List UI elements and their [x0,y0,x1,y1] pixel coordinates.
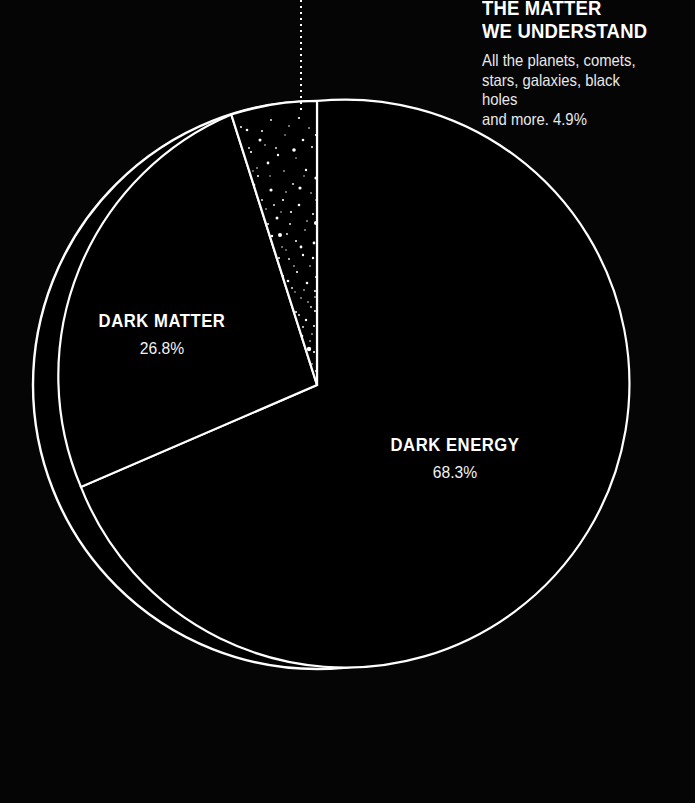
callout-matter-we-understand: THE MATTER WE UNDERSTAND All the planets… [482,0,677,129]
callout-description: All the planets, comets, stars, galaxies… [482,51,658,129]
callout-title-line1: THE MATTER [482,0,654,19]
label-dark-energy-name: DARK ENERGY [365,434,545,456]
infographic-canvas: THE MATTER WE UNDERSTAND All the planets… [0,0,695,803]
label-dark-energy: DARK ENERGY 68.3% [355,434,555,483]
label-dark-matter: DARK MATTER 26.8% [62,310,262,359]
label-dark-matter-percent: 26.8% [70,339,254,359]
label-dark-energy-percent: 68.3% [363,463,547,483]
label-dark-matter-name: DARK MATTER [72,310,252,332]
callout-title-line2: WE UNDERSTAND [482,19,654,42]
